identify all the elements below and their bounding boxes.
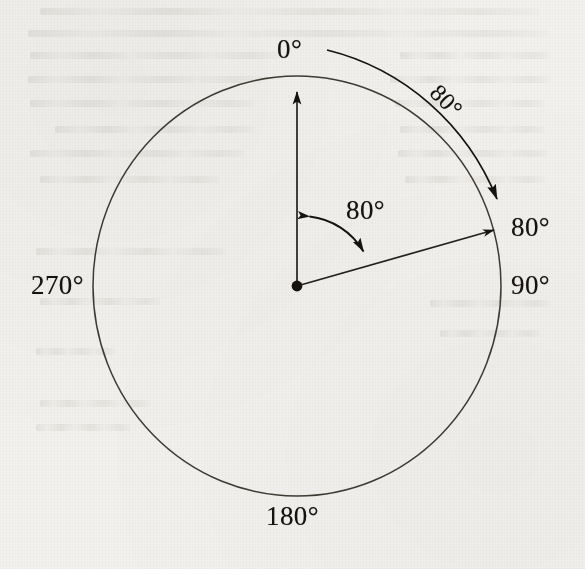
label-bearing-ray-80-degrees: 80° [511,214,550,241]
label-interior-angle-80-degrees: 80° [346,197,385,224]
bearing-ray-line [297,230,494,286]
label-90-degrees: 90° [511,272,550,299]
label-270-degrees: 270° [31,272,84,299]
label-180-degrees: 180° [266,503,319,530]
label-0-degrees: 0° [277,36,302,63]
angle-diagram [0,0,585,569]
center-point-dot [292,281,303,292]
